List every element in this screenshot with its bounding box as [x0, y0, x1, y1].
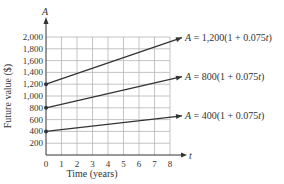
- x-axis-arrow-icon: [181, 153, 187, 158]
- y-tick-label: 800: [30, 103, 44, 113]
- y-tick-label: 1,200: [23, 79, 44, 89]
- start-point: [44, 129, 48, 133]
- series-line: [46, 77, 182, 108]
- y-tick-label: 1,400: [23, 67, 44, 77]
- x-tick-label: 0: [44, 159, 49, 169]
- series-label: A = 1,200(1 + 0.075t): [184, 32, 272, 44]
- x-tick-label: 8: [168, 159, 173, 169]
- y-tick-label: 1,600: [23, 56, 44, 66]
- x-tick-label: 6: [137, 159, 142, 169]
- y-tick-label: 2,000: [23, 32, 44, 42]
- y-tick-label: 600: [30, 115, 44, 125]
- y-tick-label: 200: [30, 138, 44, 148]
- data-lines: A = 1,200(1 + 0.075t)A = 800(1 + 0.075t)…: [44, 32, 272, 133]
- y-tick-labels: 2004006008001,0001,2001,4001,6001,8002,0…: [23, 32, 44, 148]
- chart: 2004006008001,0001,2001,4001,6001,8002,0…: [0, 0, 284, 184]
- series-label: A = 400(1 + 0.075t): [184, 110, 264, 122]
- axes: [44, 17, 188, 158]
- grid: [46, 37, 170, 155]
- y-axis-arrow-icon: [44, 17, 49, 24]
- series-label: A = 800(1 + 0.075t): [184, 71, 264, 83]
- y-tick-label: 1,000: [23, 91, 44, 101]
- y-tick-label: 1,800: [23, 44, 44, 54]
- x-tick-label: 7: [152, 159, 157, 169]
- series-line: [46, 116, 182, 132]
- y-axis-symbol: A: [41, 6, 49, 17]
- y-axis-label: Future value ($): [2, 64, 14, 128]
- start-point: [44, 82, 48, 86]
- x-axis-symbol: t: [189, 150, 192, 161]
- start-point: [44, 106, 48, 110]
- arrow-icon: [176, 37, 182, 42]
- x-axis-label: Time (years): [66, 168, 117, 180]
- y-tick-label: 400: [30, 126, 44, 136]
- x-tick-label: 1: [59, 159, 64, 169]
- x-tick-label: 5: [121, 159, 126, 169]
